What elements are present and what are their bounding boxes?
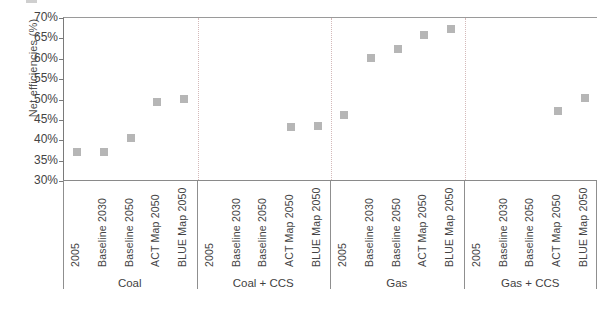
group-divider-gridline [331, 18, 332, 180]
y-tick-label: 70% [18, 11, 58, 23]
x-tick-label: 2005 [203, 243, 215, 267]
data-point-marker [581, 94, 589, 102]
x-tick-label: Baseline 2050 [390, 198, 402, 267]
y-tick-mark [59, 120, 64, 121]
data-point-marker [554, 107, 562, 115]
y-tick-label: 50% [18, 93, 58, 105]
x-group-label: Gas + CCS [464, 277, 598, 289]
y-tick-mark [59, 59, 64, 60]
group-separator-line [596, 181, 597, 289]
x-tick-label: BLUE Map 2050 [310, 187, 322, 267]
x-tick-label: ACT Map 2050 [149, 194, 161, 267]
data-point-marker [447, 25, 455, 33]
y-tick-label: 40% [18, 133, 58, 145]
x-tick-label: 2005 [470, 243, 482, 267]
data-point-marker [287, 123, 295, 131]
y-tick-mark [59, 161, 64, 162]
x-group-label: Coal + CCS [197, 277, 331, 289]
x-tick-label: Baseline 2050 [256, 198, 268, 267]
x-tick-label: ACT Map 2050 [550, 194, 562, 267]
y-tick-label: 45% [18, 113, 58, 125]
group-separator-line [63, 181, 64, 289]
data-point-marker [153, 98, 161, 106]
y-tick-label: 35% [18, 154, 58, 166]
x-tick-label: Baseline 2050 [123, 198, 135, 267]
x-group-label: Gas [330, 277, 464, 289]
x-tick-label: Baseline 2030 [497, 198, 509, 267]
x-tick-label: Baseline 2050 [523, 198, 535, 267]
group-divider-gridline [198, 18, 199, 180]
x-tick-label: 2005 [69, 243, 81, 267]
x-tick-label: Baseline 2030 [363, 198, 375, 267]
x-tick-label: ACT Map 2050 [416, 194, 428, 267]
y-tick-mark [59, 79, 64, 80]
x-tick-label: 2005 [336, 243, 348, 267]
data-point-marker [100, 148, 108, 156]
y-tick-mark [59, 100, 64, 101]
plot-area [63, 17, 597, 180]
data-point-marker [73, 148, 81, 156]
y-tick-mark [59, 140, 64, 141]
y-tick-label: 65% [18, 31, 58, 43]
data-point-marker [180, 95, 188, 103]
y-tick-mark [59, 18, 64, 19]
x-tick-label: ACT Map 2050 [283, 194, 295, 267]
y-tick-mark [59, 38, 64, 39]
data-point-marker [394, 45, 402, 53]
group-separator-line [464, 181, 465, 289]
x-tick-label: BLUE Map 2050 [443, 187, 455, 267]
y-tick-label: 55% [18, 72, 58, 84]
x-axis-label-band: 2005Baseline 2030Baseline 2050ACT Map 20… [63, 181, 597, 289]
y-axis-tick-labels: 70%65%60%55%50%45%40%35%30% [18, 0, 58, 318]
x-tick-label: BLUE Map 2050 [577, 187, 589, 267]
x-tick-label: Baseline 2030 [96, 198, 108, 267]
group-divider-gridline [465, 18, 466, 180]
group-separator-line [330, 181, 331, 289]
x-group-label: Coal [63, 277, 197, 289]
data-point-marker [127, 134, 135, 142]
data-point-marker [314, 122, 322, 130]
data-point-marker [420, 31, 428, 39]
data-point-marker [367, 54, 375, 62]
efficiency-scatter-chart: Net efficiencies (%) 70%65%60%55%50%45%4… [0, 0, 601, 318]
y-tick-label: 30% [18, 174, 58, 186]
x-tick-label: Baseline 2030 [230, 198, 242, 267]
x-tick-label: BLUE Map 2050 [176, 187, 188, 267]
data-point-marker [340, 111, 348, 119]
y-tick-label: 60% [18, 52, 58, 64]
group-separator-line [197, 181, 198, 289]
